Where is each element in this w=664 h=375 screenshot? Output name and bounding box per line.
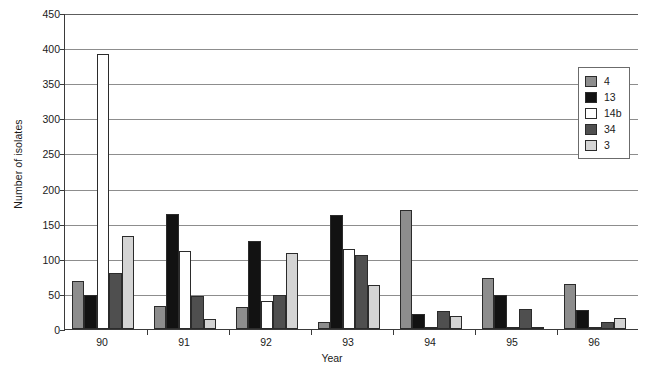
bar-13-93	[330, 215, 342, 329]
bar-series-group	[65, 14, 638, 329]
y-tick-label: 200	[20, 184, 60, 195]
bar-13-96	[576, 310, 588, 329]
bar-14b-91	[179, 251, 191, 329]
bar-14b-95	[507, 327, 519, 329]
chart-legend: 41314b343	[578, 67, 630, 159]
legend-swatch-3	[585, 140, 597, 151]
bar-14b-90	[97, 54, 109, 329]
y-tick-label: 350	[20, 79, 60, 90]
bar-13-95	[494, 295, 506, 329]
legend-swatch-4	[585, 76, 597, 87]
bar-34-95	[519, 309, 531, 329]
bar-34-92	[273, 295, 285, 329]
bar-34-93	[355, 255, 367, 329]
bar-34-91	[191, 296, 203, 329]
bar-4-95	[482, 278, 494, 329]
bar-3-94	[450, 316, 462, 329]
bar-34-96	[601, 322, 613, 329]
bar-4-96	[564, 284, 576, 329]
legend-label-13: 13	[604, 92, 616, 103]
bar-3-92	[286, 253, 298, 329]
legend-label-34: 34	[604, 124, 616, 135]
legend-label-14b: 14b	[604, 108, 622, 119]
legend-label-4: 4	[604, 76, 610, 87]
x-axis-title: Year	[0, 352, 664, 364]
legend-entry-34: 34	[585, 121, 622, 137]
bar-14b-94	[425, 327, 437, 329]
bar-34-90	[109, 273, 121, 329]
bar-13-91	[166, 214, 178, 329]
bar-3-93	[368, 285, 380, 329]
y-tick-label: 400	[20, 44, 60, 55]
bar-13-94	[412, 314, 424, 329]
plot-area	[64, 14, 638, 330]
y-tick-label: 100	[20, 255, 60, 266]
x-tick-label-91: 91	[164, 336, 204, 348]
legend-entry-4: 4	[585, 73, 622, 89]
bar-3-90	[122, 236, 134, 329]
bar-4-91	[154, 306, 166, 329]
bar-14b-92	[261, 301, 273, 329]
bar-4-93	[318, 322, 330, 329]
bar-14b-96	[589, 327, 601, 329]
bar-3-96	[614, 318, 626, 329]
legend-swatch-34	[585, 124, 597, 135]
bar-chart-figure: Number of isolates 050100150200250300350…	[0, 0, 664, 375]
y-tick-label: 0	[20, 325, 60, 336]
bar-13-92	[248, 241, 260, 329]
bar-3-91	[204, 319, 216, 329]
x-tick-label-96: 96	[574, 336, 614, 348]
y-tick-label: 50	[20, 290, 60, 301]
bar-34-94	[437, 311, 449, 329]
x-tick-label-93: 93	[328, 336, 368, 348]
y-tick-label: 250	[20, 149, 60, 160]
bar-4-94	[400, 210, 412, 329]
legend-swatch-13	[585, 92, 597, 103]
legend-label-3: 3	[604, 140, 610, 151]
y-tick-label: 150	[20, 219, 60, 230]
y-tick-mark	[60, 330, 65, 331]
x-tick-label-90: 90	[82, 336, 122, 348]
bar-4-92	[236, 307, 248, 329]
y-tick-label: 300	[20, 114, 60, 125]
bar-3-95	[532, 327, 544, 329]
legend-swatch-14b	[585, 108, 597, 119]
legend-entry-3: 3	[585, 137, 622, 153]
y-tick-label: 450	[20, 9, 60, 20]
x-tick-label-94: 94	[410, 336, 450, 348]
x-tick-label-92: 92	[246, 336, 286, 348]
legend-entry-14b: 14b	[585, 105, 622, 121]
x-tick-label-95: 95	[492, 336, 532, 348]
x-axis-tick-labels: 90919293949596	[64, 332, 638, 354]
y-axis-tick-labels: 050100150200250300350400450	[20, 14, 60, 330]
legend-entry-13: 13	[585, 89, 622, 105]
bar-4-90	[72, 281, 84, 329]
bar-14b-93	[343, 249, 355, 329]
bar-13-90	[84, 295, 96, 329]
